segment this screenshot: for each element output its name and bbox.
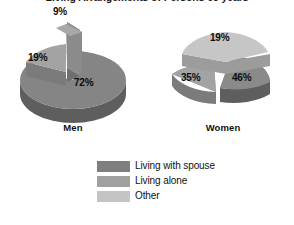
men-category-label: Men <box>13 122 133 133</box>
legend-swatch-living-alone <box>97 176 130 187</box>
men-slice-label-other: 9% <box>53 6 67 17</box>
men-slice-label-alone: 19% <box>28 52 47 63</box>
chart-legend: Living with spouse Living alone Other <box>97 160 215 202</box>
pie-chart-figure: Living Arrangements of Persons 65 years <box>0 0 294 225</box>
legend-swatch-other <box>97 191 130 202</box>
legend-item-living-alone: Living alone <box>97 175 215 187</box>
women-slice-label-other: 19% <box>210 32 229 43</box>
pie-chart-men: 72% 19% 9% Men <box>8 14 138 144</box>
women-category-label: Women <box>163 122 283 133</box>
women-slice-label-spouse: 46% <box>232 72 251 83</box>
women-slice-label-alone: 35% <box>181 72 200 83</box>
legend-item-other: Other <box>97 190 215 202</box>
chart-title: Living Arrangements of Persons 65 years <box>0 0 294 3</box>
men-slice-label-spouse: 72% <box>74 77 93 88</box>
legend-swatch-living-with-spouse <box>97 161 130 172</box>
legend-label-other: Other <box>135 190 160 202</box>
legend-label-living-with-spouse: Living with spouse <box>135 160 215 172</box>
legend-item-living-with-spouse: Living with spouse <box>97 160 215 172</box>
pie-men-graphic <box>8 14 138 134</box>
legend-label-living-alone: Living alone <box>135 175 187 187</box>
pie-chart-women: 46% 35% 19% Women <box>158 14 288 144</box>
